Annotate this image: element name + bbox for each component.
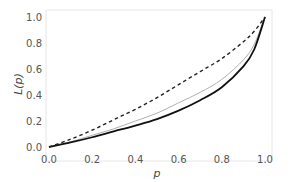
y-tick-label: 0.8: [26, 38, 42, 49]
x-tick-label: 0.4: [127, 154, 143, 165]
series-gray-line: [49, 17, 265, 147]
y-tick-label: 0.0: [26, 142, 42, 153]
y-tick-label: 0.2: [26, 116, 42, 127]
y-axis-ticks: 0.00.20.40.60.81.0: [26, 12, 42, 153]
y-tick-label: 1.0: [26, 12, 42, 23]
x-tick-label: 0.6: [171, 154, 187, 165]
y-tick-label: 0.6: [26, 64, 42, 75]
x-tick-label: 0.2: [84, 154, 100, 165]
x-tick-label: 1.0: [257, 154, 273, 165]
y-axis-label: L(p): [12, 73, 25, 95]
x-tick-label: 0.0: [41, 154, 57, 165]
plot-frame: [46, 10, 272, 161]
lorenz-chart: 0.00.20.40.60.81.0 0.00.20.40.60.81.0 p …: [0, 0, 291, 182]
series-black-line: [49, 17, 265, 147]
y-tick-label: 0.4: [26, 90, 42, 101]
x-tick-label: 0.8: [214, 154, 230, 165]
series-dashed-line: [49, 17, 265, 147]
x-axis-ticks: 0.00.20.40.60.81.0: [41, 154, 273, 165]
series-lines: [49, 17, 265, 147]
x-axis-label: p: [153, 167, 161, 180]
